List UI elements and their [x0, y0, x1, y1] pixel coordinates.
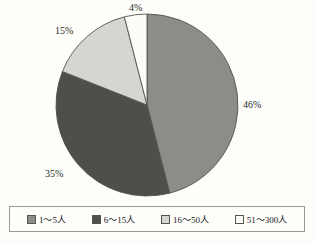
legend-swatch-icon — [161, 215, 170, 224]
legend-item-16-50[interactable]: 16〜50人 — [161, 213, 209, 226]
pie-plot-area: 46% 35% 15% 4% — [0, 0, 316, 200]
slice-label-6-15: 35% — [45, 168, 63, 179]
legend-item-51-300[interactable]: 51〜300人 — [235, 213, 288, 226]
legend-swatch-icon — [27, 215, 36, 224]
pie-slice-group — [56, 14, 238, 196]
slice-label-16-50: 15% — [55, 25, 73, 36]
chart-legend: 1〜5人 6〜15人 16〜50人 51〜300人 — [9, 206, 305, 232]
pie-chart: 46% 35% 15% 4% 1〜5人 6〜15人 16〜50人 51〜300人 — [0, 0, 316, 243]
legend-label: 16〜50人 — [173, 213, 209, 226]
slice-label-51-300: 4% — [129, 2, 142, 13]
legend-swatch-icon — [235, 215, 244, 224]
slice-label-1-5: 46% — [243, 99, 261, 110]
legend-swatch-icon — [92, 215, 101, 224]
legend-item-6-15[interactable]: 6〜15人 — [92, 213, 136, 226]
legend-label: 1〜5人 — [39, 213, 66, 226]
legend-label: 51〜300人 — [247, 213, 288, 226]
legend-label: 6〜15人 — [104, 213, 136, 226]
legend-item-1-5[interactable]: 1〜5人 — [27, 213, 66, 226]
